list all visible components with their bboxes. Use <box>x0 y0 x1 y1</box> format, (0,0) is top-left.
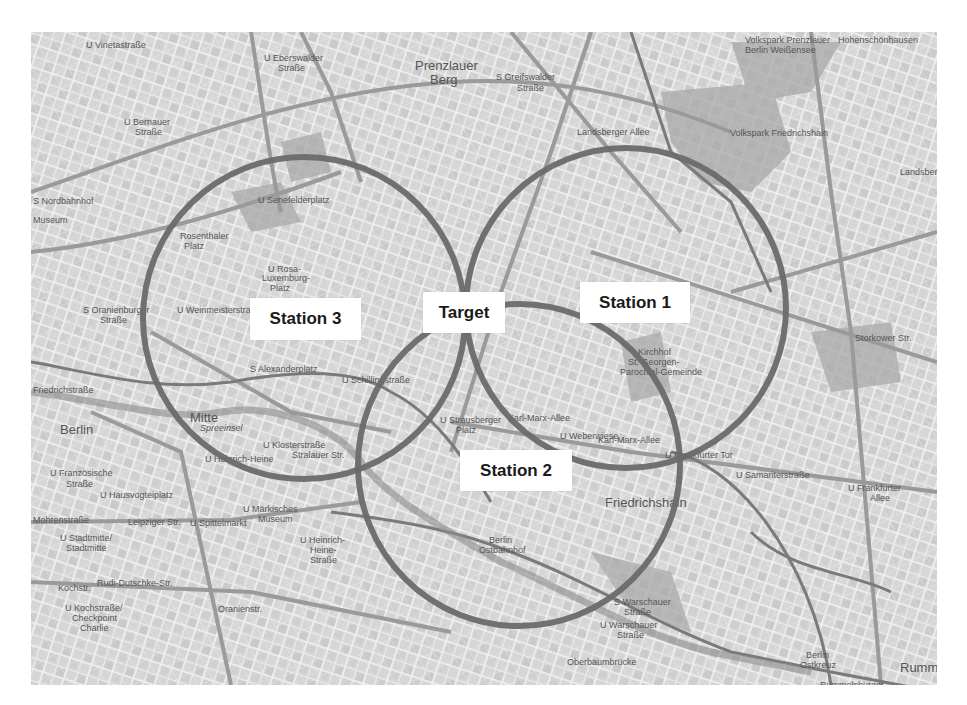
map-place-label: Straße <box>66 479 93 489</box>
map-place-label: Stralauer Str. <box>292 450 345 460</box>
map-place-label: Platz <box>184 241 204 251</box>
map-place-label: U Hausvogteiplatz <box>100 490 173 500</box>
map-place-label: U Heinrich- <box>300 535 345 545</box>
map-place-label: Museum <box>258 514 293 524</box>
map-place-label: U Warschauer <box>600 620 657 630</box>
map-place-label: Charlie <box>80 623 109 633</box>
map-place-label: Museum <box>33 215 68 225</box>
map-place-label: Berlin <box>489 535 512 545</box>
map-place-label: U Weinmeisterstraße <box>177 305 261 315</box>
map-place-label: Karl-Marx-Allee <box>598 435 660 445</box>
map-place-label: U Strausberger <box>440 415 501 425</box>
map-place-label: Ostkreuz <box>800 660 836 670</box>
map-place-label: Berlin <box>60 425 93 435</box>
map-place-label: U Märkisches <box>243 504 298 514</box>
map-place-label: Straße <box>100 315 127 325</box>
station-1-label[interactable]: Station 1 <box>580 282 690 323</box>
target-label[interactable]: Target <box>423 292 505 333</box>
map-place-label: U Heinrich-Heine <box>205 454 274 464</box>
map-place-label: S Warschauer <box>614 597 671 607</box>
map-place-label: Landsberger <box>900 167 937 177</box>
map-place-label: Rosenthaler <box>180 231 229 241</box>
map-place-label: Mohrenstraße <box>33 515 89 525</box>
map-place-label: Berlin <box>806 650 829 660</box>
map-place-label: U Eberswalder <box>264 53 323 63</box>
map-place-label: S Nordbahnhof <box>33 196 94 206</box>
map-place-label: Spreeinsel <box>200 423 243 433</box>
map-place-label: U Frankfurter Tor <box>665 450 733 460</box>
map-place-label: Kochstr. <box>58 583 91 593</box>
map-place-label: St. Georgen- <box>628 357 680 367</box>
map-place-label: Parochial-Gemeinde <box>620 367 702 377</box>
map-place-label: Straße <box>135 127 162 137</box>
map-place-label: Prenzlauer <box>415 61 478 71</box>
map-place-label: Berg <box>430 75 457 85</box>
map-place-label: U Schillingstraße <box>342 375 410 385</box>
map-place-label: U Französische <box>50 468 113 478</box>
map-place-label: U Klosterstraße <box>263 440 326 450</box>
map-place-label: U Frankfurter <box>848 483 901 493</box>
map-place-label: Mitte <box>190 413 218 423</box>
map-place-label: Heine- <box>310 545 337 555</box>
map-place-label: U Stadtmitte/ <box>60 533 112 543</box>
map-place-label: Straße <box>517 83 544 93</box>
map-place-label: Stadtmitte <box>66 543 107 553</box>
map-place-label: Ostbahnhof <box>479 545 526 555</box>
station-2-label[interactable]: Station 2 <box>460 450 572 491</box>
map-place-label: U Vinetastraße <box>86 40 146 50</box>
map-place-label: Oberbaumbrücke <box>567 657 637 667</box>
map-place-label: Allee <box>870 493 890 503</box>
map-place-label: Platz <box>270 283 290 293</box>
map-place-label: Karl-Marx-Allee <box>508 413 570 423</box>
map-place-label: S Alexanderplatz <box>250 364 318 374</box>
map-place-label: Friedrichstraße <box>33 385 94 395</box>
map-place-label: Berlin Weißensee <box>745 45 816 55</box>
map-frame[interactable]: U VinetastraßeU EberswalderStraßePrenzla… <box>31 32 937 685</box>
map-place-label: Straße <box>310 555 337 565</box>
map-place-label: Volkspark Prenzlauer <box>745 35 830 45</box>
map-place-label: Straße <box>617 630 644 640</box>
map-place-label: Luxemburg- <box>262 273 310 283</box>
map-place-label: U Bernauer <box>124 117 170 127</box>
map-place-label: S Greifswalder <box>496 72 555 82</box>
map-place-label: Rudi-Dutschke-Str. <box>97 578 173 588</box>
map-place-label: Landsberger Allee <box>577 127 650 137</box>
map-place-label: Leipziger Str. <box>128 517 181 527</box>
map-place-label: Checkpoint <box>72 613 117 623</box>
map-place-label: Kirchhof <box>638 347 671 357</box>
map-place-label: Rummelsburg <box>900 663 937 673</box>
map-place-label: U Samariterstraße <box>736 470 810 480</box>
map-place-label: Volkspark Friedrichshain <box>730 128 828 138</box>
map-place-label: Hohenschönhausen <box>838 35 918 45</box>
map-place-label: S Oranienburger <box>83 305 150 315</box>
map-place-label: Oranienstr. <box>218 604 262 614</box>
map-place-label: Storkower Str. <box>855 333 912 343</box>
map-place-label: Friedrichshain <box>605 498 687 508</box>
map-place-label: Rummelsburger <box>820 680 884 685</box>
map-place-label: U Senefelderplatz <box>258 195 330 205</box>
map-place-label: Straße <box>278 63 305 73</box>
station-3-label[interactable]: Station 3 <box>250 298 361 340</box>
map-place-label: Platz <box>456 425 476 435</box>
map-place-label: Straße <box>624 607 651 617</box>
map-place-label: U Spittelmarkt <box>190 518 247 528</box>
map-place-label: U Kochstraße/ <box>65 603 123 613</box>
